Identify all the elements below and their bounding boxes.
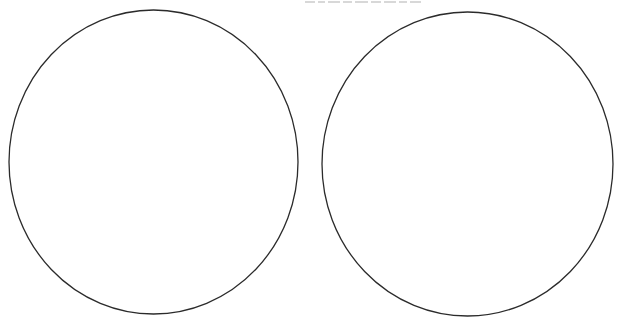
diagram-canvas [0,0,627,325]
left-circle [9,10,298,314]
right-circle [322,12,613,316]
